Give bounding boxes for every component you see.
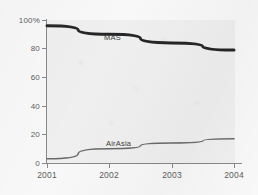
series-lines (0, 0, 258, 195)
series-line-airasia (47, 139, 234, 159)
series-label-mas: MAS (104, 33, 121, 42)
series-label-airasia: AirAsia (106, 139, 131, 148)
series-line-mas (47, 26, 234, 50)
line-chart-figure: 100% 80 60 40 20 0 2001 2002 2003 2004 M… (0, 0, 258, 195)
